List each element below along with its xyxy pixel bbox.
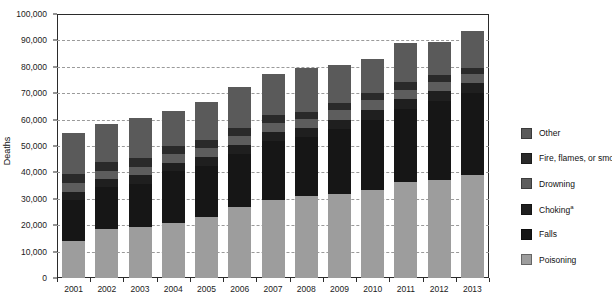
bar-segment-drowning[interactable] bbox=[295, 119, 318, 128]
legend-item-fire-flames-or-smoke[interactable]: Fire, flames, or smoke bbox=[521, 153, 612, 163]
bar-segment-drowning[interactable] bbox=[195, 148, 218, 157]
bar-segment-falls[interactable] bbox=[428, 101, 451, 180]
bar-segment-poisoning[interactable] bbox=[328, 194, 351, 278]
bar-segment-fire-flames-or-smoke[interactable] bbox=[262, 115, 285, 123]
bar-segment-fire-flames-or-smoke[interactable] bbox=[228, 128, 251, 136]
bar-segment-falls[interactable] bbox=[262, 141, 285, 200]
bar-segment-falls[interactable] bbox=[295, 137, 318, 196]
legend-item-choking[interactable]: Chokinga bbox=[521, 204, 612, 214]
bar-segment-fire-flames-or-smoke[interactable] bbox=[361, 93, 384, 100]
bar-segment-choking[interactable] bbox=[394, 99, 417, 109]
bar-segment-fire-flames-or-smoke[interactable] bbox=[129, 158, 152, 166]
bar-segment-falls[interactable] bbox=[228, 154, 251, 207]
bar-segment-other[interactable] bbox=[95, 124, 118, 163]
bar-segment-poisoning[interactable] bbox=[428, 180, 451, 278]
bar-segment-falls[interactable] bbox=[62, 200, 85, 241]
bar-segment-poisoning[interactable] bbox=[262, 200, 285, 278]
bar-2005[interactable] bbox=[195, 14, 218, 278]
bar-segment-choking[interactable] bbox=[129, 175, 152, 183]
bar-segment-falls[interactable] bbox=[195, 166, 218, 218]
bar-2010[interactable] bbox=[361, 14, 384, 278]
bar-segment-other[interactable] bbox=[62, 133, 85, 174]
bar-segment-choking[interactable] bbox=[195, 157, 218, 165]
bar-segment-falls[interactable] bbox=[461, 93, 484, 175]
bar-2011[interactable] bbox=[394, 14, 417, 278]
legend-item-falls[interactable]: Falls bbox=[521, 230, 612, 240]
x-axis-tick-mark bbox=[290, 278, 291, 282]
bar-segment-choking[interactable] bbox=[162, 163, 185, 171]
bar-segment-other[interactable] bbox=[428, 42, 451, 76]
bar-2013[interactable] bbox=[461, 14, 484, 278]
bar-segment-other[interactable] bbox=[262, 74, 285, 115]
bar-segment-choking[interactable] bbox=[228, 145, 251, 154]
bar-segment-fire-flames-or-smoke[interactable] bbox=[62, 174, 85, 183]
bar-segment-fire-flames-or-smoke[interactable] bbox=[328, 103, 351, 110]
bar-segment-other[interactable] bbox=[228, 87, 251, 128]
bar-2006[interactable] bbox=[228, 14, 251, 278]
bar-segment-fire-flames-or-smoke[interactable] bbox=[195, 140, 218, 148]
bar-segment-falls[interactable] bbox=[129, 184, 152, 227]
bar-segment-drowning[interactable] bbox=[262, 123, 285, 132]
bar-segment-choking[interactable] bbox=[428, 91, 451, 101]
bar-2009[interactable] bbox=[328, 14, 351, 278]
bar-segment-drowning[interactable] bbox=[129, 167, 152, 176]
bar-segment-drowning[interactable] bbox=[361, 100, 384, 110]
bar-segment-drowning[interactable] bbox=[428, 82, 451, 91]
bar-segment-poisoning[interactable] bbox=[295, 196, 318, 278]
bar-2001[interactable] bbox=[62, 14, 85, 278]
bar-segment-choking[interactable] bbox=[262, 132, 285, 141]
bar-segment-other[interactable] bbox=[162, 111, 185, 146]
bar-2004[interactable] bbox=[162, 14, 185, 278]
bar-segment-choking[interactable] bbox=[95, 179, 118, 187]
legend-item-other[interactable]: Other bbox=[521, 128, 612, 138]
bar-segment-choking[interactable] bbox=[295, 128, 318, 137]
bar-segment-drowning[interactable] bbox=[95, 171, 118, 179]
bar-segment-choking[interactable] bbox=[62, 192, 85, 200]
bar-2002[interactable] bbox=[95, 14, 118, 278]
bar-2008[interactable] bbox=[295, 14, 318, 278]
bar-segment-other[interactable] bbox=[328, 65, 351, 103]
bar-segment-falls[interactable] bbox=[394, 109, 417, 182]
bar-segment-drowning[interactable] bbox=[394, 90, 417, 100]
bar-segment-drowning[interactable] bbox=[62, 183, 85, 192]
bar-segment-fire-flames-or-smoke[interactable] bbox=[162, 146, 185, 154]
bar-segment-choking[interactable] bbox=[361, 110, 384, 120]
bar-segment-other[interactable] bbox=[195, 102, 218, 139]
bar-segment-poisoning[interactable] bbox=[62, 241, 85, 278]
bar-segment-falls[interactable] bbox=[361, 120, 384, 190]
bar-segment-fire-flames-or-smoke[interactable] bbox=[295, 112, 318, 119]
bar-segment-fire-flames-or-smoke[interactable] bbox=[394, 82, 417, 89]
bar-2007[interactable] bbox=[262, 14, 285, 278]
bar-segment-drowning[interactable] bbox=[461, 74, 484, 83]
bar-segment-falls[interactable] bbox=[95, 187, 118, 229]
bar-segment-drowning[interactable] bbox=[328, 110, 351, 119]
bar-segment-other[interactable] bbox=[394, 43, 417, 82]
bar-segment-falls[interactable] bbox=[162, 171, 185, 222]
bar-segment-fire-flames-or-smoke[interactable] bbox=[428, 75, 451, 82]
bar-segment-fire-flames-or-smoke[interactable] bbox=[461, 68, 484, 75]
bar-segment-poisoning[interactable] bbox=[162, 223, 185, 278]
legend-label: Fire, flames, or smoke bbox=[539, 154, 612, 163]
bar-segment-poisoning[interactable] bbox=[228, 207, 251, 278]
bar-segment-poisoning[interactable] bbox=[461, 175, 484, 278]
bar-segment-poisoning[interactable] bbox=[95, 229, 118, 278]
bar-segment-other[interactable] bbox=[461, 31, 484, 67]
bar-2012[interactable] bbox=[428, 14, 451, 278]
bar-segment-falls[interactable] bbox=[328, 129, 351, 194]
bar-segment-poisoning[interactable] bbox=[129, 227, 152, 278]
legend-item-poisoning[interactable]: Poisoning bbox=[521, 255, 612, 265]
bar-segment-choking[interactable] bbox=[461, 83, 484, 93]
bar-segment-drowning[interactable] bbox=[228, 136, 251, 145]
legend-item-drowning[interactable]: Drowning bbox=[521, 179, 612, 189]
bar-segment-other[interactable] bbox=[129, 118, 152, 158]
bar-segment-fire-flames-or-smoke[interactable] bbox=[95, 162, 118, 170]
bar-segment-poisoning[interactable] bbox=[394, 182, 417, 278]
bar-2003[interactable] bbox=[129, 14, 152, 278]
x-axis-tick-mark bbox=[356, 278, 357, 282]
bar-segment-poisoning[interactable] bbox=[195, 217, 218, 278]
bar-segment-other[interactable] bbox=[361, 59, 384, 93]
bar-segment-choking[interactable] bbox=[328, 120, 351, 129]
bar-segment-poisoning[interactable] bbox=[361, 190, 384, 278]
bar-segment-drowning[interactable] bbox=[162, 154, 185, 163]
bar-segment-other[interactable] bbox=[295, 68, 318, 112]
